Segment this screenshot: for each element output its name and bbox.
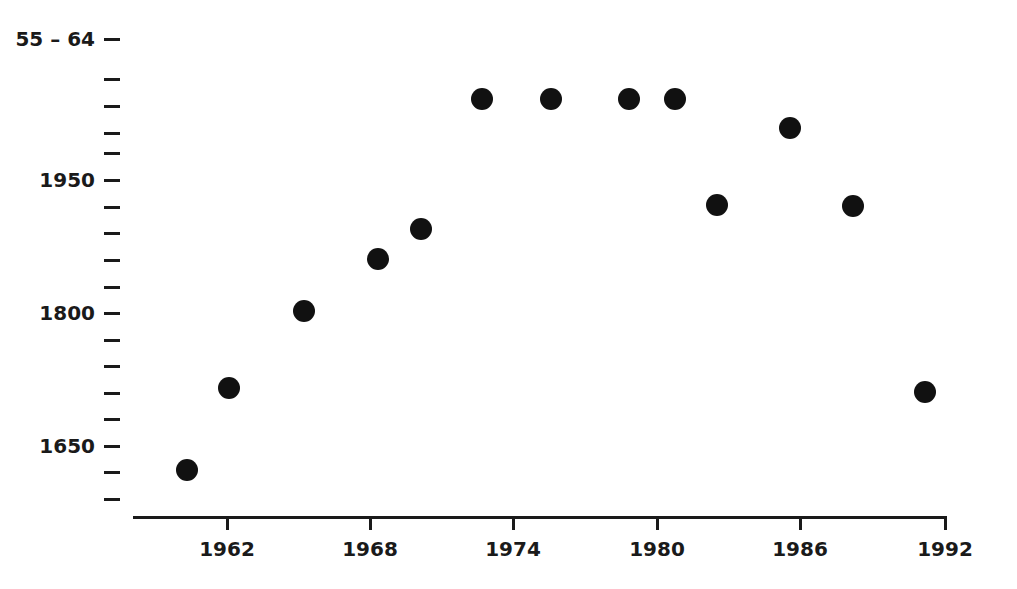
y-axis-tick-label: 1800 <box>39 303 95 323</box>
data-point <box>618 88 640 110</box>
y-axis-tick-label: 1650 <box>39 436 95 456</box>
x-axis-tick-label: 1980 <box>607 539 707 559</box>
y-axis-tick <box>104 152 120 155</box>
data-point <box>914 381 936 403</box>
y-axis-tick <box>104 312 120 315</box>
y-axis-tick <box>104 365 120 368</box>
y-axis-tick <box>104 179 120 182</box>
y-axis-tick <box>104 286 120 289</box>
x-axis-tick-label: 1968 <box>320 539 420 559</box>
data-point <box>540 88 562 110</box>
y-axis-tick <box>104 132 120 135</box>
y-axis-tick <box>104 471 120 474</box>
x-axis-tick <box>799 519 802 530</box>
data-point <box>706 194 728 216</box>
x-axis-tick <box>369 519 372 530</box>
y-axis-tick <box>104 38 120 41</box>
data-point <box>410 218 432 240</box>
y-axis-tick <box>104 339 120 342</box>
scatter-plot-figure: 55 – 64195018001650 19621968197419801986… <box>0 0 1017 589</box>
data-point <box>176 459 198 481</box>
y-axis-tick-label: 1950 <box>39 170 95 190</box>
data-point <box>664 88 686 110</box>
data-point <box>367 248 389 270</box>
y-axis-tick <box>104 392 120 395</box>
y-axis-tick <box>104 105 120 108</box>
x-axis-tick-label: 1986 <box>750 539 850 559</box>
chart-top-label: 55 – 64 <box>15 29 95 49</box>
x-axis-tick <box>512 519 515 530</box>
x-axis-line <box>133 516 947 519</box>
x-axis-tick <box>656 519 659 530</box>
data-point <box>471 88 493 110</box>
y-axis-tick <box>104 259 120 262</box>
y-axis-tick <box>104 445 120 448</box>
y-axis-tick <box>104 206 120 209</box>
data-point <box>779 117 801 139</box>
x-axis-tick <box>226 519 229 530</box>
y-axis-tick <box>104 418 120 421</box>
data-point <box>842 195 864 217</box>
y-axis-tick <box>104 232 120 235</box>
x-axis-tick-label: 1962 <box>177 539 277 559</box>
y-axis-tick <box>104 498 120 501</box>
y-axis-tick <box>104 78 120 81</box>
x-axis-tick <box>944 519 947 530</box>
data-point <box>218 377 240 399</box>
x-axis-tick-label: 1992 <box>895 539 995 559</box>
x-axis-tick-label: 1974 <box>463 539 563 559</box>
data-point <box>293 300 315 322</box>
